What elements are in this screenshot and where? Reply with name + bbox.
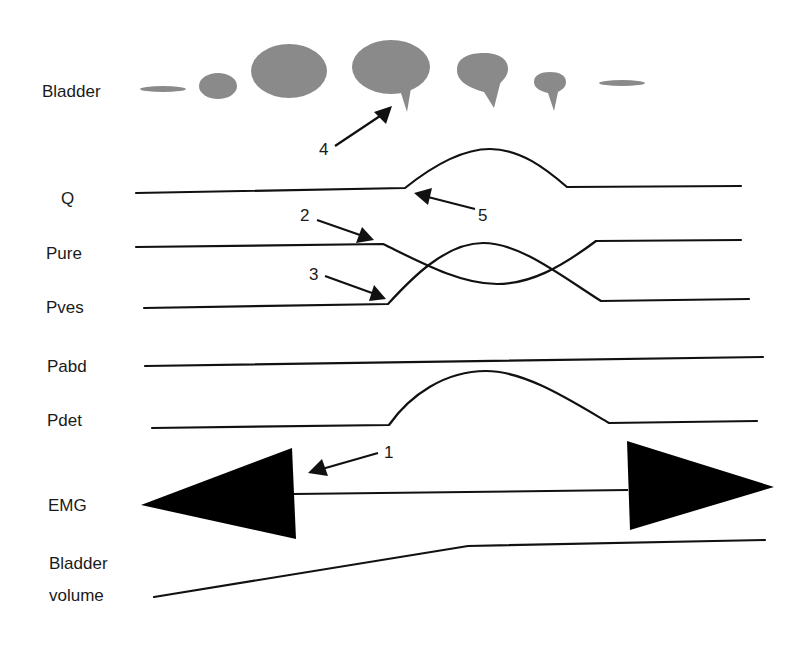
label-emg: EMG (48, 496, 87, 515)
annotation-5-label: 5 (478, 206, 487, 225)
annotation-1: 1 (308, 443, 393, 476)
annotation-2: 2 (300, 206, 374, 243)
annotation-5-arrow-icon (414, 188, 432, 205)
annotation-1-label: 1 (384, 443, 393, 462)
label-pves: Pves (46, 298, 84, 317)
label-q: Q (61, 189, 74, 208)
pure-trace (136, 240, 741, 284)
annotation-5-arrow-line (428, 197, 475, 209)
bladder-shape-6 (534, 72, 566, 111)
annotation-3-label: 3 (309, 265, 318, 284)
label-pabd: Pabd (47, 357, 87, 376)
annotation-1-arrow-icon (308, 459, 328, 476)
q-trace (136, 149, 741, 193)
label-pure: Pure (46, 244, 82, 263)
annotation-3: 3 (309, 265, 386, 301)
label-bladder: Bladder (42, 82, 101, 101)
pdet-trace (152, 371, 757, 428)
bladder-shape-4 (352, 40, 430, 112)
label-bladder-volume-1: Bladder (49, 554, 108, 573)
annotation-5: 5 (414, 188, 487, 225)
annotation-4-arrow-icon (374, 106, 392, 124)
annotation-3-arrow-line (325, 276, 372, 293)
bladder-shape-3 (251, 44, 327, 98)
annotation-4-arrow-line (335, 116, 380, 146)
bladder-shape-7 (599, 80, 645, 86)
label-pdet: Pdet (47, 411, 82, 430)
emg-quiet-line (294, 490, 628, 494)
annotation-1-arrow-line (322, 453, 378, 469)
emg-burst-left (141, 448, 296, 539)
bladder-shapes (140, 40, 645, 112)
label-bladder-volume-2: volume (49, 586, 104, 605)
pves-trace (144, 243, 749, 308)
bladder-shape-1 (140, 86, 186, 92)
urodynamic-diagram: Bladder Q Pure Pves Pabd Pdet EMG Bladde… (0, 0, 811, 648)
annotation-3-arrow-icon (369, 285, 386, 301)
emg-trace (141, 441, 774, 539)
annotation-2-arrow-line (317, 220, 360, 235)
bladder-shape-2 (199, 73, 237, 99)
pabd-trace (145, 357, 763, 366)
annotation-4-label: 4 (319, 140, 328, 159)
bladder-volume-trace (154, 540, 765, 597)
emg-burst-right (627, 441, 774, 530)
bladder-shape-5 (457, 53, 508, 108)
annotation-4: 4 (319, 106, 392, 159)
annotation-2-label: 2 (300, 206, 309, 225)
